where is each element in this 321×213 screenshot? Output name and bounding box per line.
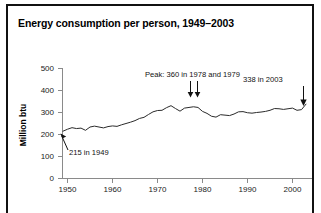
y-tick-label-100: 100 — [41, 152, 55, 161]
y-tick-label-400: 400 — [41, 86, 55, 95]
y-tick-label-500: 500 — [41, 64, 55, 73]
y-tick-label-300: 300 — [41, 108, 55, 117]
annotation-start-label: 215 in 1949 — [69, 148, 109, 157]
line-chart-svg: 0 100 200 300 400 500 Million btu 1950 1… — [0, 0, 321, 213]
annotation-peak-label: Peak: 360 in 1978 and 1979 — [145, 70, 240, 79]
annotation-start: 215 in 1949 — [61, 134, 109, 158]
arrow-down-icon-1978 — [188, 92, 194, 98]
x-tick-label-1980: 1980 — [194, 185, 212, 194]
annotation-end-label: 338 in 2003 — [243, 75, 283, 84]
y-tick-label-0: 0 — [50, 174, 55, 183]
plot-area: 0 100 200 300 400 500 Million btu 1950 1… — [0, 0, 321, 213]
x-tick-label-2000: 2000 — [284, 185, 302, 194]
y-axis-title: Million btu — [18, 104, 28, 147]
annotation-peak: Peak: 360 in 1978 and 1979 — [145, 70, 240, 98]
arrow-down-icon-1979 — [195, 92, 201, 98]
x-tick-label-1950: 1950 — [59, 185, 77, 194]
annotation-end: 338 in 2003 — [243, 75, 307, 106]
x-tick-label-1960: 1960 — [104, 185, 122, 194]
x-axis-ticks — [68, 179, 293, 184]
chart-figure: Energy consumption per person, 1949–2003… — [0, 0, 321, 213]
x-tick-label-1970: 1970 — [149, 185, 167, 194]
y-tick-label-200: 200 — [41, 130, 55, 139]
y-axis-ticks — [58, 69, 63, 179]
energy-consumption-line — [63, 104, 306, 131]
x-tick-label-1990: 1990 — [239, 185, 257, 194]
